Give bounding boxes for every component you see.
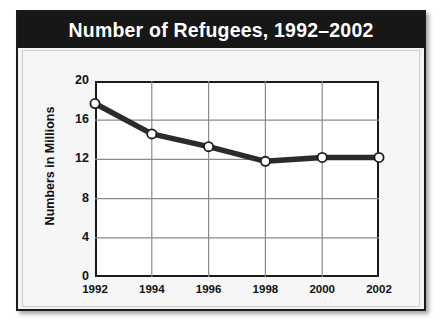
y-tick-label: 12 — [49, 151, 89, 165]
y-tick-label: 20 — [49, 73, 89, 87]
plot-wrapper — [95, 81, 379, 277]
y-tick-label: 0 — [49, 269, 89, 283]
y-tick-label: 8 — [49, 191, 89, 205]
x-tick-label: 2000 — [292, 283, 352, 295]
chart-title-bar: Number of Refugees, 1992–2002 — [18, 12, 424, 48]
chart-panel: Numbers in Millions 048121620 1992199419… — [22, 50, 420, 307]
x-tick-label: 1998 — [235, 283, 295, 295]
y-axis-title: Numbers in Millions — [43, 86, 57, 246]
x-tick-label: 1994 — [122, 283, 182, 295]
chart-title: Number of Refugees, 1992–2002 — [69, 19, 374, 42]
data-series — [95, 81, 379, 277]
x-tick-label: 1996 — [179, 283, 239, 295]
chart-figure: Number of Refugees, 1992–2002 Numbers in… — [0, 0, 444, 329]
x-tick-label: 1992 — [65, 283, 125, 295]
y-tick-label: 16 — [49, 112, 89, 126]
chart-card: Number of Refugees, 1992–2002 Numbers in… — [16, 10, 426, 311]
x-tick-label: 2002 — [349, 283, 409, 295]
y-tick-label: 4 — [49, 230, 89, 244]
